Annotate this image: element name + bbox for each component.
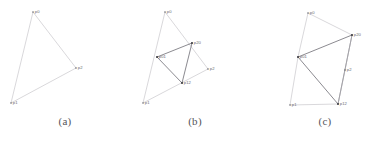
panel-c-caption: (c) [260, 115, 390, 127]
vertex-p2 [344, 69, 346, 71]
vertex-label-p20: p20 [194, 40, 202, 45]
vertex-p2 [207, 68, 209, 70]
vertex-label-p1: p1 [13, 100, 18, 105]
panel-c: p0p1p2p01p20p12 (c) [260, 0, 390, 141]
vertex-p20 [191, 42, 193, 44]
edge-p0-p2 [165, 12, 208, 69]
vertex-label-p2: p2 [210, 66, 215, 71]
panel-c-diagram: p0p1p2p01p20p12 [260, 0, 390, 115]
edge-p0-p2 [33, 12, 76, 68]
vertex-p0 [164, 11, 166, 13]
edge-p2-p12 [338, 70, 345, 104]
vertex-label-p0: p0 [35, 9, 40, 14]
edge-p20-p12 [182, 43, 192, 83]
vertex-label-p01: p01 [159, 54, 167, 59]
vertex-p12 [337, 103, 339, 105]
edge-p1-p2 [143, 69, 208, 103]
vertex-p1 [10, 102, 12, 104]
vertex-p2 [75, 67, 77, 69]
panel-a-diagram: p0p1p2 [0, 0, 130, 115]
panel-b-diagram: p0p1p2p01p20p12 [130, 0, 260, 115]
vertex-p20 [351, 34, 353, 36]
edge-p20-p2 [345, 35, 352, 70]
vertex-label-p0: p0 [310, 10, 315, 15]
vertex-p0 [32, 11, 34, 13]
vertex-p01 [297, 56, 299, 58]
vertex-label-p20: p20 [354, 32, 362, 37]
edge-p12-p01 [157, 57, 182, 83]
vertex-p1 [142, 102, 144, 104]
vertex-label-p0: p0 [167, 9, 172, 14]
edge-p0-p20 [308, 13, 352, 35]
panel-b: p0p1p2p01p20p12 (b) [130, 0, 260, 141]
vertex-label-p12: p12 [340, 101, 348, 106]
edge-p1-p2 [11, 68, 76, 103]
panel-a: p0p1p2 (a) [0, 0, 130, 141]
vertex-p01 [156, 56, 158, 58]
figure-three-panels: p0p1p2 (a) p0p1p2p01p20p12 (b) p0p1p2p01… [0, 0, 390, 141]
edge-p0-p01 [298, 13, 308, 57]
vertex-label-p01: p01 [300, 54, 308, 59]
panel-b-caption: (b) [130, 115, 260, 127]
edge-p01-p1 [290, 57, 298, 105]
vertex-label-p1: p1 [292, 102, 297, 107]
vertex-p1 [289, 104, 291, 106]
vertex-label-p2: p2 [347, 67, 352, 72]
vertex-p0 [307, 12, 309, 14]
vertex-label-p2: p2 [78, 65, 83, 70]
edge-p1-p12 [290, 104, 338, 105]
panel-a-caption: (a) [0, 115, 130, 127]
vertex-p12 [181, 82, 183, 84]
vertex-label-p1: p1 [145, 100, 150, 105]
vertex-label-p12: p12 [184, 80, 192, 85]
edge-p0-p1 [11, 12, 33, 103]
edge-p01-p12 [298, 57, 338, 104]
